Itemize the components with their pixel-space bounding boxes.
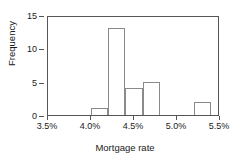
histogram-bar (108, 28, 125, 115)
histogram-chart: 051015 Frequency 3.5%4.0%4.5%5.0%5.5% Mo… (0, 0, 250, 160)
x-tick-mark (176, 116, 177, 120)
y-tick-label: 15 (27, 12, 37, 21)
histogram-bar (143, 82, 160, 115)
y-tick-mark (39, 49, 44, 50)
x-tick-label: 4.5% (123, 121, 144, 131)
histogram-bar (91, 108, 108, 115)
x-tick-mark (90, 116, 91, 120)
x-tick-label: 5.0% (166, 121, 187, 131)
x-tick-label: 3.5% (37, 121, 58, 131)
y-tick-label: 5 (32, 78, 37, 87)
x-tick-mark (133, 116, 134, 120)
y-axis-title: Frequency (6, 8, 17, 80)
x-axis-title: Mortgage rate (0, 142, 250, 153)
x-tick-mark (47, 116, 48, 120)
y-tick-label: 10 (27, 45, 37, 54)
x-tick-label: 5.5% (209, 121, 230, 131)
y-tick-mark (39, 83, 44, 84)
plot-area (47, 16, 219, 116)
x-axis: 3.5%4.0%4.5%5.0%5.5% (0, 116, 250, 130)
x-tick-mark (219, 116, 220, 120)
histogram-bar (194, 102, 211, 115)
histogram-bar (125, 88, 142, 115)
x-tick-label: 4.0% (80, 121, 101, 131)
y-tick-mark (39, 16, 44, 17)
